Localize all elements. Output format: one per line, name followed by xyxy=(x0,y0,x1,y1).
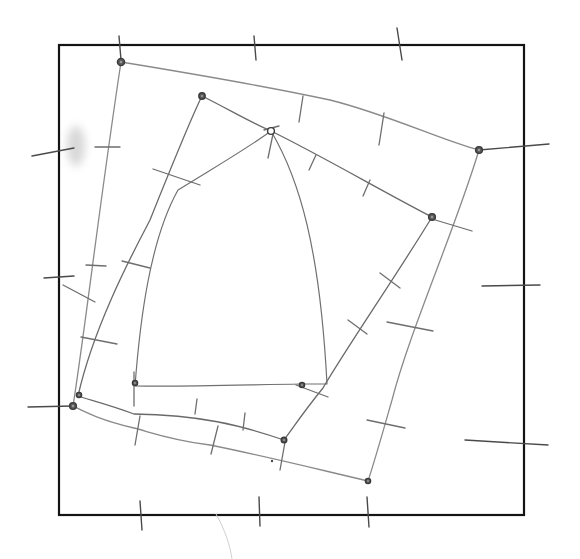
tick-left-3 xyxy=(28,406,73,407)
vertex-left-upper-dot-center xyxy=(78,394,80,396)
vertex-middle-bottom-dot-center xyxy=(283,439,285,441)
vertex-left-lower-dot-center xyxy=(72,405,74,407)
vertex-outer-right-dot-center xyxy=(478,149,480,151)
vertex-outer-top-left-dot-center xyxy=(120,61,123,64)
vertex-apex-dot xyxy=(268,128,275,135)
sketch-canvas xyxy=(0,0,580,559)
tick-bottom-2 xyxy=(259,497,260,526)
vertex-middle-right-dot-center xyxy=(431,216,433,218)
stray-dot xyxy=(271,460,273,462)
vertex-inner-bottom-left-dot-center xyxy=(134,382,136,384)
tick-right-1 xyxy=(482,285,540,286)
vertex-outer-bottom-dot-center xyxy=(367,480,369,482)
paper-background xyxy=(0,0,580,559)
vertex-middle-top-dot-center xyxy=(201,95,203,97)
vertex-inner-bottom-right-dot-center xyxy=(301,384,303,386)
